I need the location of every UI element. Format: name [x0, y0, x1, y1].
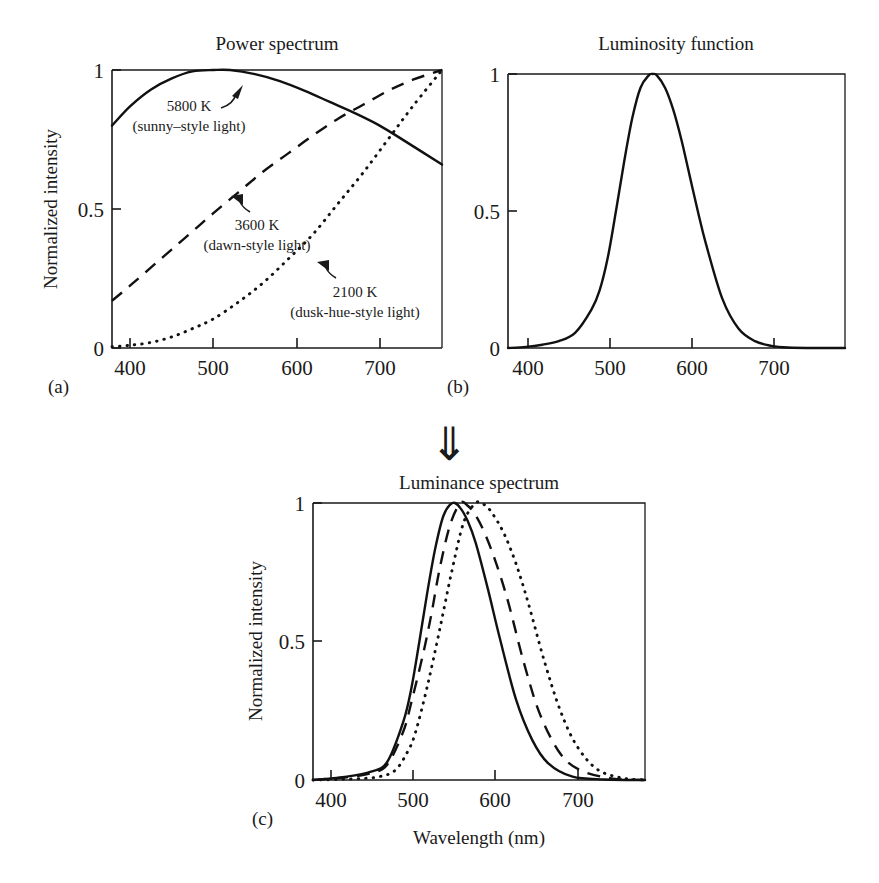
panel-c-y-axis-title: Normalized intensity [245, 561, 266, 721]
panel-c-curve-2100k [313, 502, 645, 780]
flow-down-arrow-icon: ⇓ [430, 419, 469, 470]
annot-3600k-line2: (dawn-style light) [203, 237, 310, 254]
panel-c-xlabel-500: 500 [397, 788, 429, 812]
panel-a-ylabel-05: 0.5 [78, 198, 104, 222]
panel-c-x-axis-title: Wavelength (nm) [413, 827, 545, 849]
panel-a-label: (a) [48, 376, 69, 398]
panel-c: Luminance spectrum 0 0.5 1 400 500 600 7… [245, 472, 645, 849]
panel-c-ylabel-05: 0.5 [279, 630, 305, 654]
panel-c-title: Luminance spectrum [399, 472, 559, 493]
panel-b-ylabel-05: 0.5 [474, 200, 500, 224]
panel-c-xlabel-600: 600 [479, 788, 511, 812]
panel-c-ylabel-0: 0 [295, 769, 306, 793]
figure-canvas: Power spectrum 0 0.5 1 400 500 600 700 N… [0, 0, 879, 883]
annot-3600k-line1: 3600 K [235, 217, 280, 233]
annot-5800k-line1: 5800 K [167, 98, 212, 114]
annot-2100k-arrowhead [317, 260, 329, 271]
panel-a-xlabel-500: 500 [197, 356, 229, 380]
panel-c-curve-5800k [313, 503, 645, 780]
panel-a-xlabel-400: 400 [114, 356, 146, 380]
panel-a-annotation-3600k: 3600 K (dawn-style light) [203, 194, 310, 254]
panel-b-ylabel-0: 0 [490, 337, 501, 361]
panel-c-xlabel-400: 400 [315, 788, 347, 812]
panel-b-label: (b) [447, 376, 469, 398]
panel-a-annotation-5800k: 5800 K (sunny–style light) [133, 85, 246, 135]
annot-5800k-line2: (sunny–style light) [133, 118, 246, 135]
panel-a-xlabel-600: 600 [281, 356, 313, 380]
panel-b-xlabel-700: 700 [758, 356, 790, 380]
panel-c-frame [313, 503, 645, 780]
panel-b-axes [508, 74, 845, 348]
panel-b-xlabel-600: 600 [676, 356, 708, 380]
panel-b-ylabel-1: 1 [490, 63, 501, 87]
panel-a-y-axis-title: Normalized intensity [40, 129, 61, 289]
annot-2100k-line1: 2100 K [333, 284, 378, 300]
panel-b-frame [508, 74, 845, 348]
panel-c-curve-3600k [313, 502, 645, 780]
panel-c-xlabel-700: 700 [562, 788, 594, 812]
panel-b-xlabel-400: 400 [512, 356, 544, 380]
panel-a-ylabel-0: 0 [94, 337, 105, 361]
panel-c-ylabel-1: 1 [295, 492, 306, 516]
annot-5800k-arrowhead [232, 85, 243, 99]
panel-b: Luminosity function 0 0.5 1 400 500 600 … [447, 33, 845, 398]
panel-a-annotation-2100k: 2100 K (dusk-hue-style light) [290, 260, 420, 321]
panel-b-curve-luminosity [508, 74, 845, 348]
panel-b-xlabel-500: 500 [594, 356, 626, 380]
panel-c-label: (c) [252, 808, 273, 830]
panel-a-ylabel-1: 1 [94, 59, 105, 83]
panel-a: Power spectrum 0 0.5 1 400 500 600 700 N… [40, 33, 442, 398]
panel-a-title: Power spectrum [216, 33, 339, 54]
panel-b-title: Luminosity function [598, 33, 754, 54]
panel-c-axes [313, 503, 645, 780]
figure-root: Power spectrum 0 0.5 1 400 500 600 700 N… [0, 0, 879, 883]
panel-a-xlabel-700: 700 [364, 356, 396, 380]
annot-2100k-line2: (dusk-hue-style light) [290, 304, 420, 321]
panel-a-curve-3600k [112, 70, 442, 301]
